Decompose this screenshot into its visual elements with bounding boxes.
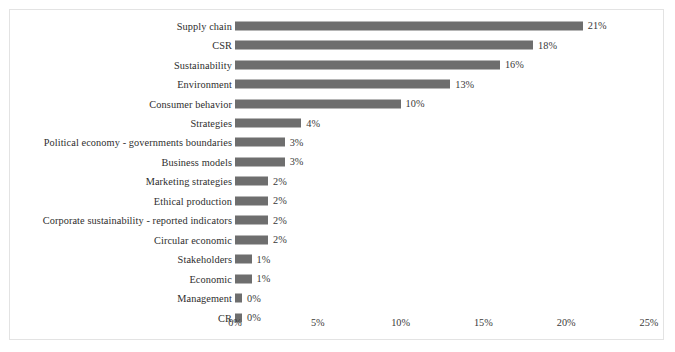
x-tick-label: 15% bbox=[474, 317, 493, 328]
bar-track: 2% bbox=[235, 235, 268, 244]
bar-row: Strategies4% bbox=[10, 113, 663, 133]
bar bbox=[235, 138, 285, 147]
x-tick-label: 10% bbox=[391, 317, 410, 328]
bar-track: 1% bbox=[235, 255, 252, 264]
bar-row: Consumer behavior10% bbox=[10, 94, 663, 114]
bar-row: Business models3% bbox=[10, 152, 663, 172]
x-tick-label: 0% bbox=[228, 317, 242, 328]
bar bbox=[235, 177, 268, 186]
bar-track: 10% bbox=[235, 99, 401, 108]
category-label: Corporate sustainability - reported indi… bbox=[43, 215, 232, 226]
bar bbox=[235, 255, 252, 264]
bar bbox=[235, 157, 285, 166]
bar-row: Economic1% bbox=[10, 269, 663, 289]
category-label: CSR bbox=[212, 40, 232, 51]
bar bbox=[235, 274, 252, 283]
bar-value-label: 18% bbox=[533, 40, 557, 51]
bar-row: Environment13% bbox=[10, 74, 663, 94]
category-label: Business models bbox=[162, 156, 232, 167]
category-label: Stakeholders bbox=[178, 254, 232, 265]
category-label: Marketing strategies bbox=[146, 176, 232, 187]
plot-area: Supply chain21%CSR18%Sustainability16%En… bbox=[10, 10, 663, 339]
category-label: Strategies bbox=[190, 118, 232, 129]
bar-value-label: 2% bbox=[268, 234, 287, 245]
bar-track: 2% bbox=[235, 216, 268, 225]
bar-value-label: 1% bbox=[252, 254, 271, 265]
category-label: Political economy - governments boundari… bbox=[44, 137, 232, 148]
bar-track: 3% bbox=[235, 157, 285, 166]
x-tick-label: 25% bbox=[640, 317, 659, 328]
bar-value-label: 0% bbox=[242, 293, 261, 304]
bar-track: 0% bbox=[235, 294, 242, 303]
bar-value-label: 21% bbox=[583, 20, 607, 31]
bar-row: Circular economic2% bbox=[10, 230, 663, 250]
bar-row: Stakeholders1% bbox=[10, 249, 663, 269]
bar bbox=[235, 119, 301, 128]
bar-row: Corporate sustainability - reported indi… bbox=[10, 211, 663, 231]
x-tick-label: 5% bbox=[311, 317, 325, 328]
bar-value-label: 3% bbox=[285, 156, 304, 167]
bar-track: 18% bbox=[235, 41, 533, 50]
bar bbox=[235, 235, 268, 244]
bar-track: 1% bbox=[235, 274, 252, 283]
bar-value-label: 10% bbox=[401, 98, 425, 109]
bar-row: Ethical production2% bbox=[10, 191, 663, 211]
bar-track: 3% bbox=[235, 138, 285, 147]
bar bbox=[235, 294, 242, 303]
bar-value-label: 3% bbox=[285, 137, 304, 148]
x-axis: 0%5%10%15%20%25% bbox=[235, 317, 663, 331]
bar-track: 2% bbox=[235, 177, 268, 186]
bar-row: Management0% bbox=[10, 288, 663, 308]
bar-track: 13% bbox=[235, 80, 450, 89]
category-label: Consumer behavior bbox=[149, 98, 232, 109]
bar bbox=[235, 21, 583, 30]
category-label: Management bbox=[177, 293, 232, 304]
category-label: Sustainability bbox=[174, 59, 232, 70]
bar bbox=[235, 196, 268, 205]
chart-frame: Supply chain21%CSR18%Sustainability16%En… bbox=[9, 9, 664, 340]
bar-track: 21% bbox=[235, 21, 583, 30]
bar-row: Marketing strategies2% bbox=[10, 172, 663, 192]
bar-value-label: 2% bbox=[268, 215, 287, 226]
bar-value-label: 1% bbox=[252, 273, 271, 284]
category-label: Supply chain bbox=[177, 20, 232, 31]
bar-value-label: 2% bbox=[268, 195, 287, 206]
bar-value-label: 13% bbox=[450, 79, 474, 90]
bar-row: Political economy - governments boundari… bbox=[10, 133, 663, 153]
bar bbox=[235, 99, 401, 108]
bar-track: 4% bbox=[235, 119, 301, 128]
bar-row: Supply chain21% bbox=[10, 16, 663, 36]
x-tick-label: 20% bbox=[557, 317, 576, 328]
bar-row: CSR18% bbox=[10, 35, 663, 55]
category-label: Circular economic bbox=[154, 234, 232, 245]
bar bbox=[235, 60, 500, 69]
category-label: Environment bbox=[177, 79, 232, 90]
bar-value-label: 16% bbox=[500, 59, 524, 70]
bar-track: 16% bbox=[235, 60, 500, 69]
bar-value-label: 2% bbox=[268, 176, 287, 187]
bar bbox=[235, 80, 450, 89]
category-label: Ethical production bbox=[154, 195, 232, 206]
bar-value-label: 4% bbox=[301, 118, 320, 129]
bar bbox=[235, 216, 268, 225]
category-label: Economic bbox=[189, 273, 232, 284]
bar bbox=[235, 41, 533, 50]
bar-row: Sustainability16% bbox=[10, 55, 663, 75]
bar-track: 2% bbox=[235, 196, 268, 205]
